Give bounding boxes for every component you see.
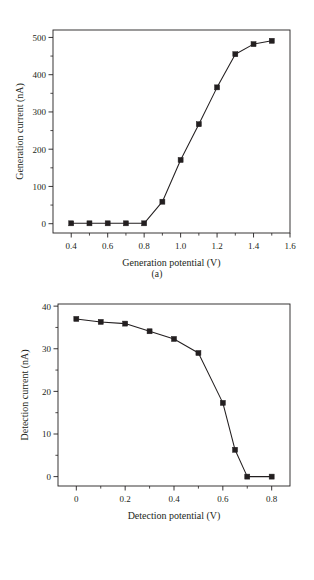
generation-data-line (71, 41, 272, 224)
generation-data-point (251, 42, 256, 47)
detection-x-tick-label: 0.6 (217, 494, 229, 504)
detection-x-axis-title: Detection potential (V) (128, 510, 221, 522)
detection-data-point (269, 474, 274, 479)
generation-x-tick-label: 0.8 (139, 241, 151, 251)
detection-y-axis-title: Detection current (nA) (19, 349, 31, 440)
detection-data-point (172, 336, 177, 341)
generation-data-point (105, 221, 110, 226)
detection-data-line (76, 319, 271, 477)
detection-data-point (196, 351, 201, 356)
generation-x-tick-label: 1.6 (284, 241, 296, 251)
generation-data-point (196, 122, 201, 127)
generation-data-point (123, 221, 128, 226)
detection-data-point (147, 329, 152, 334)
detection-y-tick-label: 20 (42, 387, 52, 397)
generation-y-tick-label: 300 (33, 107, 47, 117)
detection-y-tick-label: 0 (47, 472, 52, 482)
detection-data-point (233, 447, 238, 452)
generation-current-chart: 01002003004005000.40.60.81.01.21.41.6Gen… (0, 0, 314, 290)
detection-current-chart: 01020304000.20.40.60.8Detection potentia… (0, 290, 314, 580)
generation-x-tick-label: 1.4 (248, 241, 260, 251)
generation-x-tick-label: 0.6 (102, 241, 114, 251)
generation-data-point (215, 85, 220, 90)
detection-data-point (74, 316, 79, 321)
detection-x-tick-label: 0 (74, 494, 79, 504)
generation-data-point (87, 221, 92, 226)
generation-data-point (142, 221, 147, 226)
generation-data-point (178, 157, 183, 162)
generation-y-tick-label: 500 (33, 33, 47, 43)
generation-y-tick-label: 0 (42, 219, 47, 229)
generation-x-tick-label: 1.2 (211, 241, 222, 251)
detection-x-tick-label: 0.4 (168, 494, 180, 504)
detection-x-tick-label: 0.8 (266, 494, 278, 504)
detection-y-tick-label: 30 (42, 344, 52, 354)
generation-plot-frame (53, 30, 290, 233)
generation-data-point (269, 38, 274, 43)
generation-x-tick-label: 0.4 (66, 241, 78, 251)
detection-data-point (98, 319, 103, 324)
generation-y-tick-label: 100 (33, 182, 47, 192)
detection-y-tick-label: 10 (42, 429, 52, 439)
detection-data-point (245, 474, 250, 479)
generation-data-point (160, 199, 165, 204)
generation-data-point (69, 221, 74, 226)
panel-caption-a: (a) (0, 269, 314, 279)
detection-x-tick-label: 0.2 (120, 494, 131, 504)
figure-container: 01002003004005000.40.60.81.01.21.41.6Gen… (0, 0, 314, 580)
detection-plot-frame (58, 304, 290, 486)
generation-y-tick-label: 400 (33, 70, 47, 80)
chart-panel-b: 01020304000.20.40.60.8Detection potentia… (0, 290, 314, 580)
generation-y-axis-title: Generation current (nA) (14, 83, 26, 180)
detection-y-tick-label: 40 (42, 302, 52, 312)
generation-x-axis-title: Generation potential (V) (122, 257, 220, 269)
detection-data-point (123, 321, 128, 326)
chart-panel-a: 01002003004005000.40.60.81.01.21.41.6Gen… (0, 0, 314, 290)
generation-x-tick-label: 1.0 (175, 241, 187, 251)
generation-y-tick-label: 200 (33, 145, 47, 155)
detection-data-point (220, 400, 225, 405)
generation-data-point (233, 52, 238, 57)
